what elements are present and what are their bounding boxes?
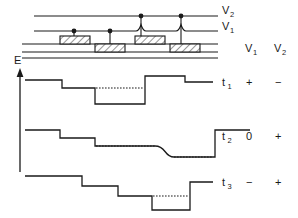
potential-curve-t3 <box>25 176 213 210</box>
t2-v1-state: 0 <box>246 130 252 142</box>
energy-axis: E <box>14 54 23 172</box>
t1-v2-state: − <box>275 76 281 88</box>
energy-axis-label: E <box>14 54 21 66</box>
rail-labels: V 2 V 1 <box>222 4 234 35</box>
rail-v2-subscript: 2 <box>230 10 234 19</box>
time-label-t2: t <box>222 130 225 142</box>
figure-canvas: V 2 V 1 E V 1 V 2 t 1 + − t 2 0 + <box>0 0 298 218</box>
column-headers: V 1 V 2 <box>245 42 286 57</box>
time-label-t1-subscript: 1 <box>228 82 232 91</box>
t1-v1-state: + <box>246 76 252 88</box>
t3-v2-state: + <box>275 176 281 188</box>
energy-axis-arrowhead <box>17 68 24 77</box>
rail-v1-label: V <box>222 20 230 32</box>
row-label-t1: t 1 + − <box>222 76 281 91</box>
rail-v1 <box>34 25 218 32</box>
time-label-t3: t <box>222 176 225 188</box>
gate-1[interactable] <box>60 36 90 44</box>
rail-v1-subscript: 1 <box>230 26 234 35</box>
row-label-t2: t 2 0 + <box>222 130 281 145</box>
gate-4[interactable] <box>170 44 200 52</box>
junction-dot-gate-3 <box>139 14 144 19</box>
t3-v1-state: − <box>246 176 252 188</box>
potential-curve-t1 <box>25 76 213 104</box>
junction-dot-gate-2 <box>108 29 113 34</box>
potential-profile-t2 <box>25 130 250 157</box>
time-label-t2-subscript: 2 <box>228 136 232 145</box>
potential-profile-t1 <box>25 76 213 104</box>
column-header-v2: V <box>274 42 282 54</box>
time-label-t3-subscript: 3 <box>228 182 232 191</box>
column-header-v1-subscript: 1 <box>253 48 257 57</box>
potential-profile-t3 <box>25 176 213 210</box>
gate-2[interactable] <box>95 44 125 52</box>
t2-v2-state: + <box>275 130 281 142</box>
junction-dot-gate-1 <box>72 29 77 34</box>
ccd-diagram-svg: V 2 V 1 E V 1 V 2 t 1 + − t 2 0 + <box>0 0 298 218</box>
potential-curve-t2 <box>25 130 250 157</box>
column-header-v2-subscript: 2 <box>282 48 286 57</box>
row-label-t3: t 3 − + <box>222 176 281 191</box>
electrode-section <box>22 14 218 58</box>
junction-dot-gate-4 <box>179 14 184 19</box>
rail-v2-label: V <box>222 4 230 16</box>
column-header-v1: V <box>245 42 253 54</box>
time-label-t1: t <box>222 76 225 88</box>
gate-3[interactable] <box>135 36 165 44</box>
